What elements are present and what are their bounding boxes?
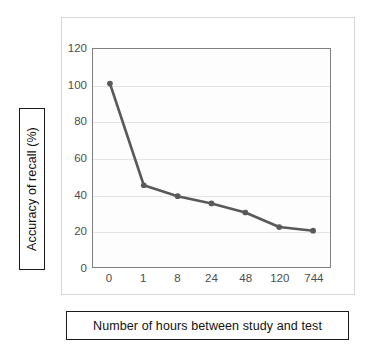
y-axis-tick-labels: 020406080100120: [62, 48, 87, 268]
data-point: [310, 228, 316, 234]
data-point: [175, 193, 181, 199]
line-series: [93, 49, 330, 267]
y-axis-tick: 0: [81, 262, 87, 274]
x-axis-tick: 0: [106, 272, 112, 284]
x-axis-tick: 8: [174, 272, 180, 284]
y-axis-tick: 60: [74, 152, 87, 164]
y-axis-tick: 80: [74, 115, 87, 127]
y-axis-tick: 40: [74, 189, 87, 201]
plot-area: [92, 48, 331, 268]
y-axis-tick: 20: [74, 225, 87, 237]
data-point: [242, 210, 248, 216]
x-axis-tick: 120: [270, 272, 289, 284]
data-point: [107, 81, 113, 87]
series-markers: [107, 81, 316, 234]
y-axis-tick: 120: [68, 42, 87, 54]
y-axis-label-box: Accuracy of recall (%): [19, 108, 45, 270]
y-axis-tick: 100: [68, 79, 87, 91]
x-axis-label-text: Number of hours between study and test: [93, 319, 322, 333]
x-axis-tick-labels: 0182448120744: [92, 272, 331, 290]
x-axis-tick: 48: [239, 272, 252, 284]
data-point: [141, 182, 147, 188]
chart-card: 020406080100120 0182448120744: [61, 17, 355, 295]
x-axis-label-box: Number of hours between study and test: [66, 311, 349, 340]
x-axis-tick: 1: [140, 272, 146, 284]
series-line: [110, 84, 313, 231]
x-axis-tick: 24: [205, 272, 218, 284]
data-point: [209, 201, 215, 207]
data-point: [276, 224, 282, 230]
y-axis-label-text: Accuracy of recall (%): [25, 127, 39, 251]
x-axis-tick: 744: [304, 272, 323, 284]
